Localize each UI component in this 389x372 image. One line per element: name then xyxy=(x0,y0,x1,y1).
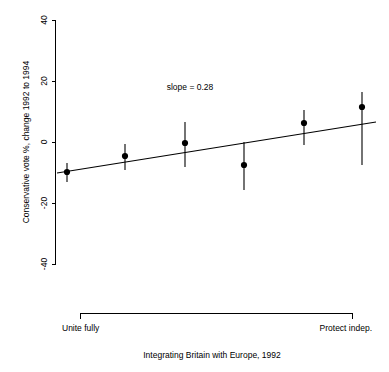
x-axis-title: Integrating Britain with Europe, 1992 xyxy=(143,350,281,360)
y-tick-label-0: 0 xyxy=(39,139,49,144)
data-point xyxy=(182,140,188,146)
chart-page: 40 20 0 -20 -40 Conservative vote %, cha… xyxy=(0,0,389,372)
data-point xyxy=(64,169,70,175)
y-tick-label-20: 20 xyxy=(39,76,49,86)
x-axis-right-anchor-label: Protect indep. xyxy=(320,323,372,333)
data-point xyxy=(359,104,365,110)
regression-fit-line xyxy=(57,122,376,173)
y-tick-label-neg40: -40 xyxy=(39,258,49,271)
data-point xyxy=(241,162,247,168)
y-tick-label-40: 40 xyxy=(39,15,49,25)
y-tick-label-neg20: -20 xyxy=(39,197,49,210)
data-point xyxy=(122,153,128,159)
scatter-plot-figure: 40 20 0 -20 -40 Conservative vote %, cha… xyxy=(0,0,389,372)
y-axis-title: Conservative vote %, change 1992 to 1994 xyxy=(21,60,31,223)
slope-annotation: slope = 0.28 xyxy=(167,82,214,92)
data-point xyxy=(301,120,307,126)
x-axis-bracket xyxy=(81,314,353,319)
x-axis-left-anchor-label: Unite fully xyxy=(62,323,100,333)
